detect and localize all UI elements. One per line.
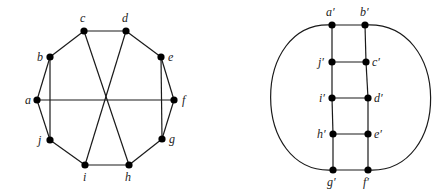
vertex (80, 27, 87, 34)
vertex-label: h (125, 170, 131, 184)
vertex-label: f′ (363, 175, 369, 189)
vertex-label: i′ (319, 91, 325, 105)
edge (365, 25, 366, 62)
vertex (33, 96, 40, 103)
vertex-label: d (122, 11, 129, 25)
vertex-label: g (169, 132, 175, 146)
vertex-label: d′ (374, 91, 383, 105)
vertex-label: j′ (316, 55, 324, 69)
vertex (329, 166, 336, 173)
right-graph: a′b′j′c′i′d′h′e′g′f′ (271, 5, 431, 189)
vertex-label: a′ (326, 5, 335, 19)
vertex-label: e′ (374, 127, 382, 141)
edge (366, 62, 368, 98)
vertex (328, 21, 335, 28)
vertex (328, 94, 335, 101)
vertex-label: c (80, 11, 86, 25)
vertex-label: e (168, 50, 174, 64)
vertex (364, 130, 371, 137)
vertex (329, 130, 336, 137)
vertex-label: f (182, 93, 187, 107)
edge (129, 139, 162, 165)
edge (50, 31, 84, 57)
diagram-canvas: abcdefghij a′b′j′c′i′d′h′e′g′f′ (0, 0, 439, 194)
edge (126, 31, 161, 57)
vertex (125, 161, 132, 168)
vertex-label: a (25, 93, 31, 107)
vertex-label: j (36, 133, 42, 147)
vertex (158, 135, 165, 142)
vertex (362, 58, 369, 65)
edge (161, 57, 162, 139)
vertex-label: c′ (372, 55, 380, 69)
vertex-label: b (37, 50, 43, 64)
left-graph: abcdefghij (25, 11, 187, 184)
vertex (364, 94, 371, 101)
vertex (364, 166, 371, 173)
vertex (46, 136, 53, 143)
edge (50, 140, 85, 165)
vertex-label: i (83, 170, 86, 184)
vertex (361, 21, 368, 28)
vertex (122, 27, 129, 34)
vertex-label: b′ (360, 5, 369, 19)
vertex (46, 53, 53, 60)
vertex-label: g′ (327, 175, 336, 189)
vertex (170, 96, 177, 103)
vertex (81, 161, 88, 168)
vertex (328, 58, 335, 65)
vertex-label: h′ (317, 127, 326, 141)
vertex (157, 53, 164, 60)
edge (332, 98, 333, 134)
